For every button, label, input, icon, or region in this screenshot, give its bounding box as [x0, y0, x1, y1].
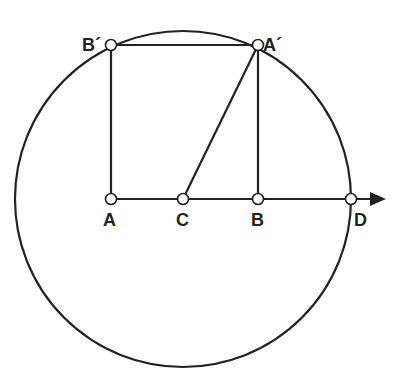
- label-bprime: B´: [82, 35, 101, 55]
- point-aprime: [253, 40, 264, 51]
- point-a: [106, 194, 117, 205]
- label-aprime: A´: [263, 35, 282, 55]
- label-c: C: [176, 210, 189, 230]
- axis-arrowhead-icon: [370, 192, 386, 206]
- label-a: A: [103, 210, 116, 230]
- label-d: D: [354, 210, 367, 230]
- point-bprime: [106, 40, 117, 51]
- label-b: B: [251, 210, 264, 230]
- point-d: [346, 194, 357, 205]
- geometry-diagram: A C B D A´ B´: [0, 0, 402, 389]
- point-c: [178, 194, 189, 205]
- segment-c-aprime: [183, 45, 258, 199]
- point-b: [253, 194, 264, 205]
